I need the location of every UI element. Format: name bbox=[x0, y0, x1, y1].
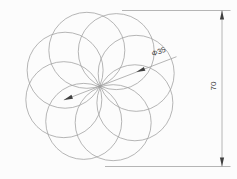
rosette-circle bbox=[46, 83, 122, 159]
rosette-circle bbox=[49, 12, 125, 88]
diameter-arrow-outer-icon bbox=[63, 95, 73, 102]
diameter-dimension-line bbox=[64, 57, 177, 100]
drawing-canvas: Φ35 70 bbox=[0, 0, 237, 179]
rosette-circle bbox=[27, 32, 103, 108]
diameter-arrow-inner-icon bbox=[135, 67, 145, 74]
circle-rosette-pattern bbox=[26, 12, 174, 160]
height-arrow-top-icon bbox=[220, 11, 224, 20]
height-dimension-label: 70 bbox=[209, 81, 218, 90]
rosette-circle bbox=[78, 14, 154, 90]
rosette-circle bbox=[75, 85, 151, 161]
technical-drawing: Φ35 70 bbox=[0, 0, 237, 179]
diameter-dimension-label: Φ35 bbox=[150, 45, 167, 59]
rosette-circle bbox=[97, 65, 173, 141]
height-arrow-bottom-icon bbox=[220, 158, 224, 167]
